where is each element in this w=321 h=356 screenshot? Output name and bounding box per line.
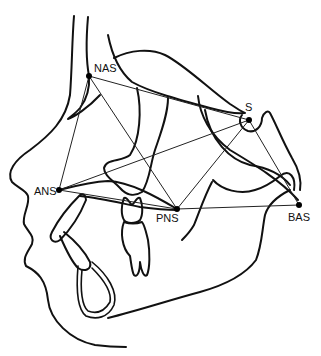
landmark-point-s	[246, 117, 252, 123]
mandible-lower-border	[108, 190, 290, 318]
cephalometric-diagram: NAS S ANS PNS BAS	[0, 0, 321, 356]
lower-incisor	[60, 232, 90, 270]
mandibular-symphysis-inner	[81, 268, 110, 312]
connection-nas-s	[89, 76, 249, 120]
landmark-label-pns: PNS	[156, 213, 179, 224]
connection-s-bas	[249, 120, 299, 205]
skull-tracing	[0, 0, 321, 356]
connection-nas-pns	[89, 76, 177, 209]
landmark-point-ans	[56, 187, 62, 193]
anterior-cranial-base	[108, 35, 244, 113]
landmark-label-s: S	[245, 102, 252, 113]
orbit-contour	[104, 88, 168, 195]
lower-molar	[122, 222, 149, 276]
landmark-points	[56, 73, 302, 212]
landmark-point-nas	[86, 73, 92, 79]
landmark-point-bas	[296, 202, 302, 208]
connection-nas-ans	[59, 76, 89, 190]
palatal-plane-lower	[80, 196, 177, 210]
landmark-label-bas: BAS	[288, 212, 310, 223]
pterygoid-plate	[182, 182, 212, 240]
landmark-label-ans: ANS	[34, 186, 57, 197]
connection-pns-bas	[177, 205, 299, 209]
landmark-label-nas: NAS	[94, 63, 117, 74]
landmark-connections	[59, 76, 299, 209]
sella-turcica	[240, 112, 301, 190]
